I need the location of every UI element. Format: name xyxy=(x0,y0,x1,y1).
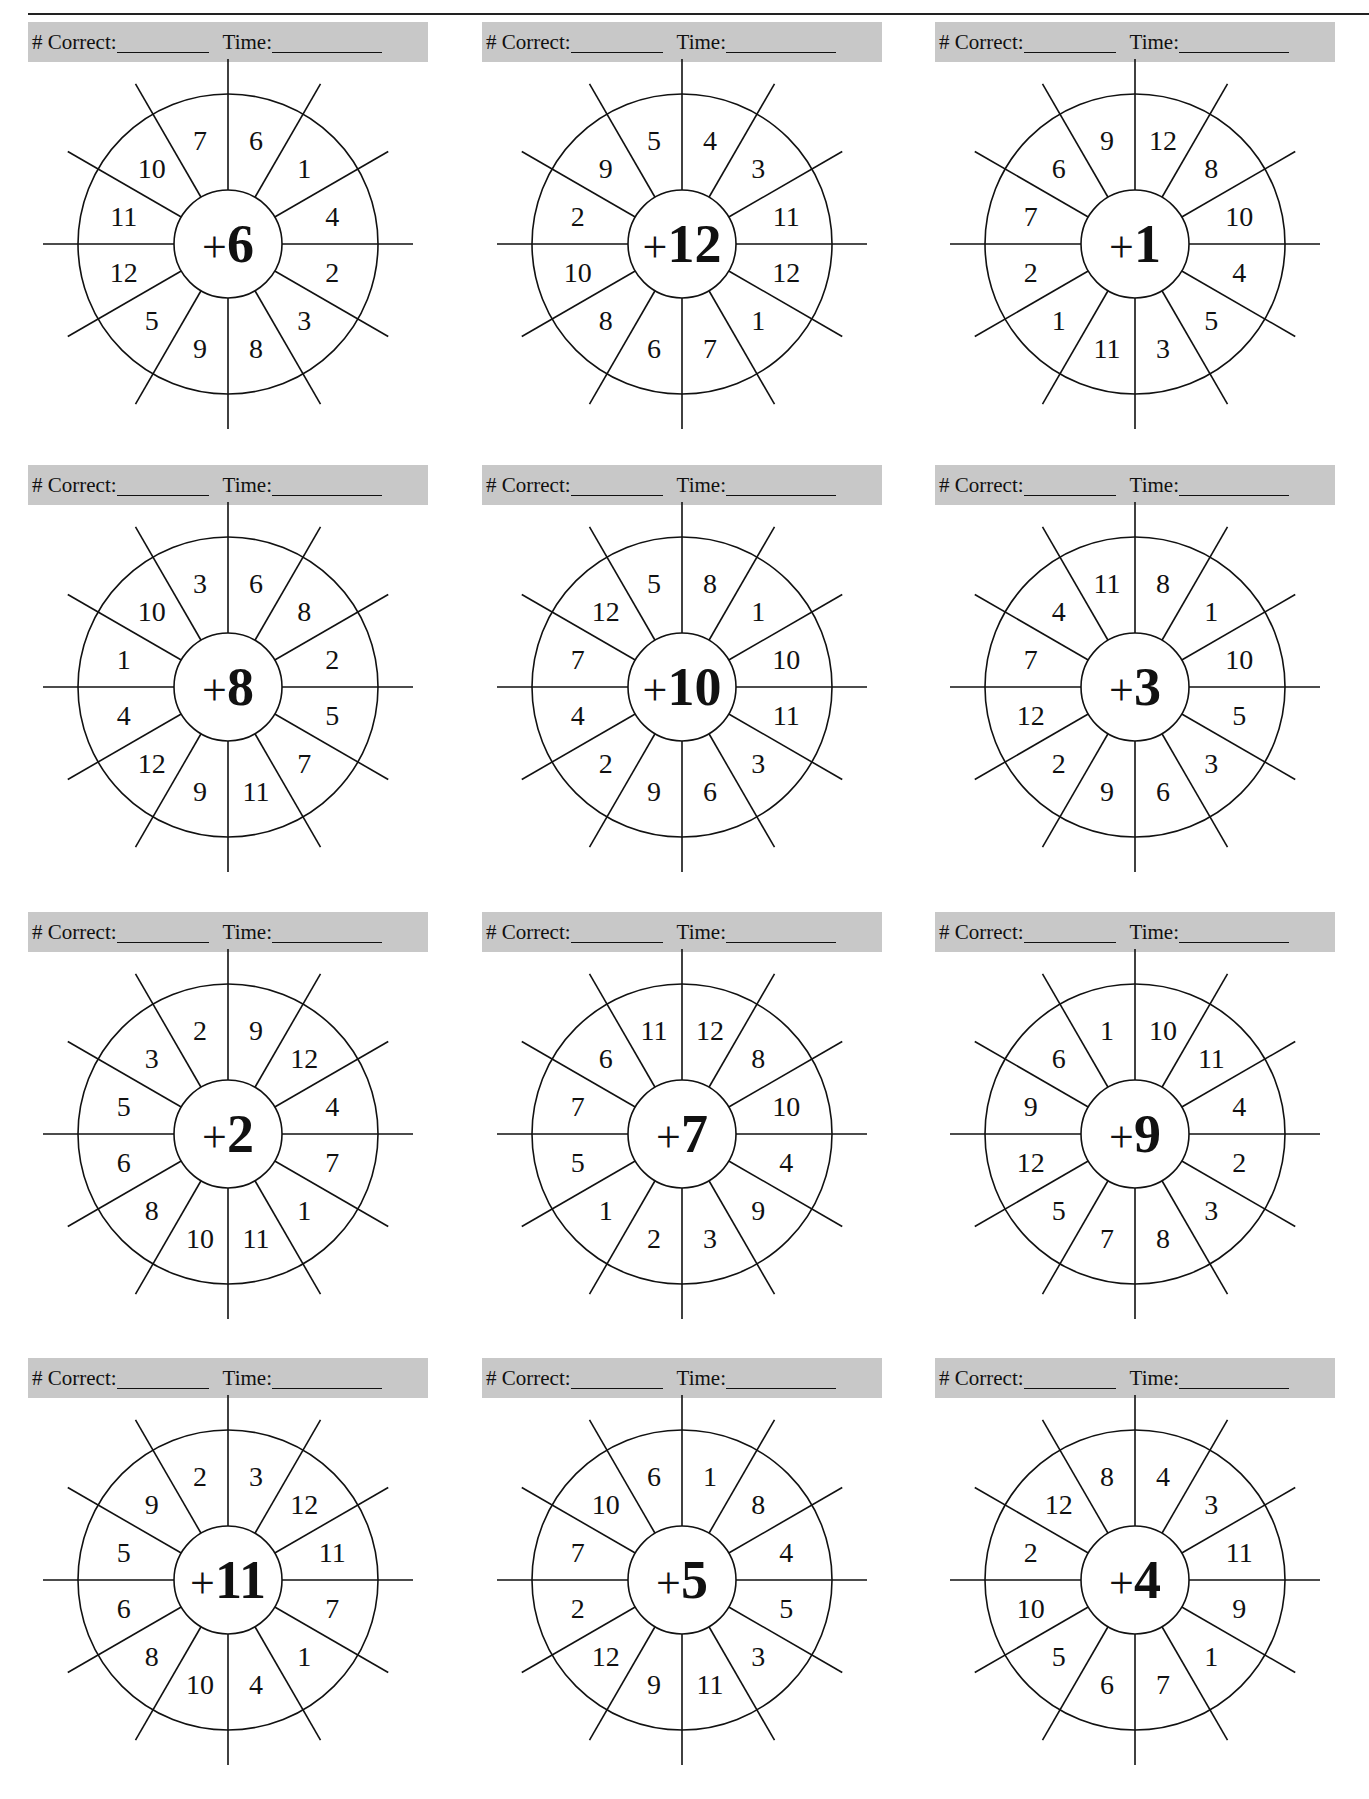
correct-answer-blank[interactable] xyxy=(117,922,209,943)
time-blank[interactable] xyxy=(272,32,382,53)
addend-value: 10 xyxy=(667,657,721,717)
wheel-number: 5 xyxy=(779,1593,793,1624)
time-label: Time: xyxy=(677,30,726,55)
number-wheel: 431191765102128+4 xyxy=(945,1390,1325,1770)
wheel-number: 11 xyxy=(242,1223,269,1254)
wheel-number: 1 xyxy=(1100,1015,1114,1046)
addend-value: 4 xyxy=(1134,1550,1161,1610)
wheel-number: 12 xyxy=(1017,700,1045,731)
time-blank[interactable] xyxy=(726,475,836,496)
wheel-number: 8 xyxy=(249,333,263,364)
wheel-number: 9 xyxy=(193,776,207,807)
wheel-number: 7 xyxy=(325,1593,339,1624)
plus-sign: + xyxy=(1109,666,1134,715)
addition-wheel-worksheet: # Correct:Time:811053692127411+3 xyxy=(935,465,1345,910)
wheel-number: 1 xyxy=(1052,305,1066,336)
time-blank[interactable] xyxy=(272,1368,382,1389)
wheel-number: 7 xyxy=(571,644,585,675)
wheel-number: 4 xyxy=(1156,1461,1170,1492)
wheel-number: 3 xyxy=(193,568,207,599)
correct-answer-blank[interactable] xyxy=(117,32,209,53)
wheel-number: 9 xyxy=(1024,1091,1038,1122)
wheel-number: 12 xyxy=(592,596,620,627)
addition-wheel-worksheet: # Correct:Time:614238951211107+6 xyxy=(28,22,438,467)
plus-sign: + xyxy=(190,1559,215,1608)
wheel-number: 8 xyxy=(1156,568,1170,599)
correct-answer-blank[interactable] xyxy=(1024,922,1116,943)
plus-sign: + xyxy=(202,1113,227,1162)
wheel-number: 2 xyxy=(325,257,339,288)
wheel-number: 10 xyxy=(1225,644,1253,675)
time-blank[interactable] xyxy=(1179,922,1289,943)
wheel-number: 4 xyxy=(1232,1091,1246,1122)
wheel-number: 12 xyxy=(290,1489,318,1520)
time-blank[interactable] xyxy=(272,922,382,943)
time-blank[interactable] xyxy=(1179,32,1289,53)
wheel-number: 6 xyxy=(1100,1669,1114,1700)
wheel-number: 7 xyxy=(1156,1669,1170,1700)
wheel-number: 3 xyxy=(1204,1489,1218,1520)
wheel-number: 2 xyxy=(1024,257,1038,288)
correct-answer-blank[interactable] xyxy=(117,1368,209,1389)
time-label: Time: xyxy=(677,473,726,498)
correct-answer-blank[interactable] xyxy=(1024,1368,1116,1389)
correct-answer-blank[interactable] xyxy=(1024,475,1116,496)
correct-answer-blank[interactable] xyxy=(571,32,663,53)
wheel-number: 5 xyxy=(647,125,661,156)
addend-value: 8 xyxy=(227,657,254,717)
wheel-number: 10 xyxy=(772,1091,800,1122)
addend-value: 5 xyxy=(681,1550,708,1610)
wheel-number: 12 xyxy=(696,1015,724,1046)
wheel-number: 2 xyxy=(571,201,585,232)
correct-answer-blank[interactable] xyxy=(571,475,663,496)
wheel-number: 9 xyxy=(1100,125,1114,156)
correct-label: # Correct: xyxy=(32,30,117,55)
addition-wheel-worksheet: # Correct:Time:101142387512961+9 xyxy=(935,912,1345,1357)
number-wheel: 128104531112769+1 xyxy=(945,54,1325,434)
addition-wheel-worksheet: # Correct:Time:312117141086592+11 xyxy=(28,1358,438,1799)
addition-wheel-worksheet: # Correct:Time:912471111086532+2 xyxy=(28,912,438,1357)
wheel-number: 2 xyxy=(1024,1537,1038,1568)
wheel-number: 12 xyxy=(110,257,138,288)
wheel-number: 12 xyxy=(138,748,166,779)
wheel-number: 2 xyxy=(193,1015,207,1046)
wheel-number: 1 xyxy=(703,1461,717,1492)
wheel-number: 3 xyxy=(249,1461,263,1492)
wheel-number: 5 xyxy=(1052,1195,1066,1226)
wheel-number: 6 xyxy=(599,1043,613,1074)
time-blank[interactable] xyxy=(1179,1368,1289,1389)
time-blank[interactable] xyxy=(1179,475,1289,496)
addend-value: 9 xyxy=(1134,1104,1161,1164)
wheel-number: 5 xyxy=(117,1537,131,1568)
plus-sign: + xyxy=(1109,223,1134,272)
time-blank[interactable] xyxy=(726,1368,836,1389)
time-label: Time: xyxy=(677,920,726,945)
wheel-number: 5 xyxy=(1204,305,1218,336)
correct-answer-blank[interactable] xyxy=(571,922,663,943)
plus-sign: + xyxy=(643,666,668,715)
correct-answer-blank[interactable] xyxy=(1024,32,1116,53)
wheel-number: 6 xyxy=(1156,776,1170,807)
time-blank[interactable] xyxy=(726,32,836,53)
time-blank[interactable] xyxy=(726,922,836,943)
wheel-number: 5 xyxy=(117,1091,131,1122)
wheel-number: 5 xyxy=(1232,700,1246,731)
wheel-number: 11 xyxy=(110,201,137,232)
wheel-number: 10 xyxy=(592,1489,620,1520)
wheel-number: 8 xyxy=(599,305,613,336)
addition-wheel-worksheet: # Correct:Time:811011369247125+10 xyxy=(482,465,892,910)
plus-sign: + xyxy=(656,1559,681,1608)
wheel-number: 10 xyxy=(1149,1015,1177,1046)
addend-value: 12 xyxy=(667,214,721,274)
wheel-number: 3 xyxy=(751,153,765,184)
wheel-number: 3 xyxy=(145,1043,159,1074)
time-blank[interactable] xyxy=(272,475,382,496)
correct-answer-blank[interactable] xyxy=(571,1368,663,1389)
correct-answer-blank[interactable] xyxy=(117,475,209,496)
center-operation: +2 xyxy=(202,1104,254,1164)
plus-sign: + xyxy=(656,1113,681,1162)
number-wheel: 431112176810295+12 xyxy=(492,54,872,434)
addition-wheel-worksheet: # Correct:Time:682571191241103+8 xyxy=(28,465,438,910)
wheel-number: 7 xyxy=(1024,201,1038,232)
wheel-number: 2 xyxy=(647,1223,661,1254)
